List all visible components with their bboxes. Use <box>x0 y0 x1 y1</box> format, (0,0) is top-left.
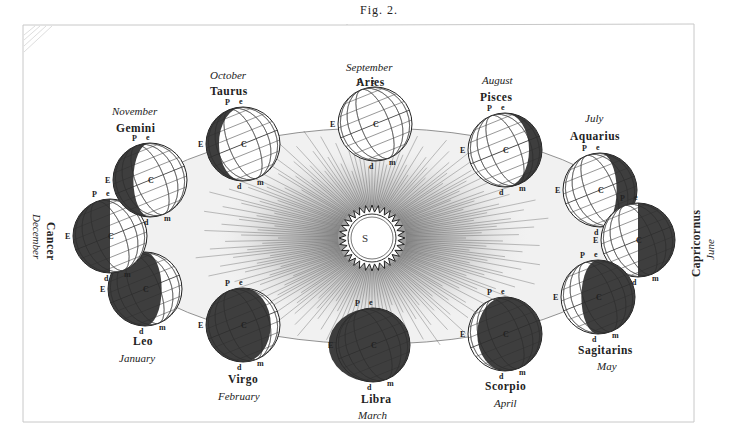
svg-text:e: e <box>106 189 110 198</box>
label-sign-pisces: Pisces <box>480 91 512 103</box>
svg-text:E: E <box>198 140 203 149</box>
svg-text:m: m <box>159 323 166 332</box>
corner-hatching <box>24 26 52 52</box>
svg-text:m: m <box>519 368 526 377</box>
svg-text:E: E <box>105 176 110 185</box>
svg-text:e: e <box>634 193 638 202</box>
label-sign-gemini: Gemini <box>116 122 156 134</box>
figure-title: Fig. 2. <box>360 3 398 17</box>
sun-label: S <box>362 232 368 244</box>
frame-top-left <box>23 24 347 25</box>
svg-text:E: E <box>328 341 333 350</box>
svg-text:E: E <box>65 232 70 241</box>
label-sign-aries: Aries <box>356 76 385 88</box>
label-sign-virgo: Virgo <box>228 373 258 386</box>
svg-text:E: E <box>555 186 560 195</box>
label-sign-cancer: Cancer <box>45 222 57 261</box>
label-sign-taurus: Taurus <box>210 85 248 97</box>
svg-text:e: e <box>239 97 243 106</box>
svg-text:d: d <box>592 335 597 344</box>
svg-text:E: E <box>460 330 465 339</box>
svg-text:E: E <box>593 236 598 245</box>
svg-text:m: m <box>519 184 526 193</box>
label-sign-libra: Libra <box>361 393 392 405</box>
label-month-november: November <box>111 105 158 117</box>
svg-text:e: e <box>501 103 505 112</box>
label-sign-capricornus: Capricornus <box>690 210 703 278</box>
svg-text:d: d <box>144 218 149 227</box>
svg-text:C: C <box>241 140 247 149</box>
label-month-february: February <box>217 390 260 402</box>
svg-text:C: C <box>148 176 154 185</box>
svg-text:m: m <box>257 178 264 187</box>
svg-text:P: P <box>582 144 587 153</box>
orbit-diagram: Fig. 2. S PeECdmPeECdmPeECdmPeECdmPeECdm… <box>0 0 743 444</box>
svg-text:P: P <box>132 134 137 143</box>
svg-text:m: m <box>652 274 659 283</box>
label-month-december: December <box>31 213 43 260</box>
svg-text:P: P <box>92 190 97 199</box>
label-month-october: October <box>210 69 247 81</box>
svg-text:e: e <box>239 278 243 287</box>
svg-text:e: e <box>594 250 598 259</box>
label-sign-leo: Leo <box>133 335 153 347</box>
svg-text:m: m <box>164 214 171 223</box>
svg-text:E: E <box>460 146 465 155</box>
label-month-june: June <box>704 239 716 260</box>
svg-text:P: P <box>355 299 360 308</box>
svg-text:m: m <box>257 359 264 368</box>
label-sign-scorpio: Scorpio <box>485 380 526 393</box>
svg-text:P: P <box>487 288 492 297</box>
sun: S <box>339 205 405 271</box>
svg-text:d: d <box>237 182 242 191</box>
svg-text:P: P <box>620 194 625 203</box>
label-month-september: September <box>346 61 393 73</box>
label-month-august: August <box>481 74 514 86</box>
night-side-shading <box>73 199 110 273</box>
svg-text:P: P <box>487 104 492 113</box>
svg-text:d: d <box>499 188 504 197</box>
svg-text:C: C <box>596 293 602 302</box>
svg-text:C: C <box>373 120 379 129</box>
svg-text:E: E <box>553 293 558 302</box>
svg-text:d: d <box>104 274 109 283</box>
night-side-shading <box>638 203 675 277</box>
svg-text:E: E <box>100 285 105 294</box>
label-month-july: July <box>585 112 603 124</box>
svg-text:d: d <box>367 383 372 392</box>
svg-text:e: e <box>596 143 600 152</box>
svg-text:C: C <box>598 186 604 195</box>
label-month-may: May <box>596 360 617 372</box>
svg-text:e: e <box>369 298 373 307</box>
svg-text:C: C <box>371 341 377 350</box>
svg-text:C: C <box>636 236 642 245</box>
svg-text:C: C <box>108 232 114 241</box>
svg-text:E: E <box>198 321 203 330</box>
label-sign-aquarius: Aquarius <box>570 130 620 143</box>
svg-text:C: C <box>503 330 509 339</box>
svg-text:C: C <box>503 146 509 155</box>
svg-text:E: E <box>330 120 335 129</box>
svg-text:C: C <box>143 285 149 294</box>
svg-text:P: P <box>225 279 230 288</box>
svg-text:e: e <box>501 287 505 296</box>
svg-text:P: P <box>225 98 230 107</box>
svg-text:C: C <box>241 321 247 330</box>
svg-text:e: e <box>146 133 150 142</box>
svg-text:d: d <box>369 162 374 171</box>
svg-text:m: m <box>387 379 394 388</box>
label-month-march: March <box>357 409 387 421</box>
label-month-april: April <box>493 397 517 409</box>
svg-text:m: m <box>124 270 131 279</box>
svg-text:d: d <box>237 363 242 372</box>
label-sign-sagitarins: Sagitarins <box>578 344 633 357</box>
svg-text:P: P <box>580 251 585 260</box>
svg-text:m: m <box>612 331 619 340</box>
label-month-january: January <box>119 352 155 364</box>
svg-text:m: m <box>389 158 396 167</box>
